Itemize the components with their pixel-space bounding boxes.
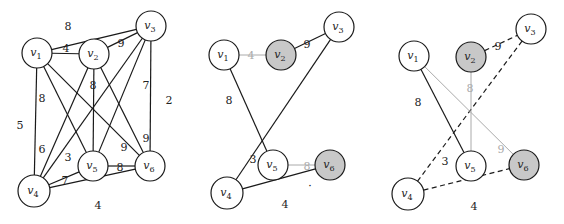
node-v6: v6 bbox=[315, 150, 345, 180]
node-v6: v6 bbox=[135, 151, 165, 181]
node-v1: v1 bbox=[399, 41, 429, 71]
node-v5: v5 bbox=[456, 151, 486, 181]
edge-weight-label: 8 bbox=[467, 82, 474, 95]
edge-v1-v5 bbox=[44, 66, 87, 152]
graph-figure: 849589896372784v1v2v3v4v5v6 498384v1v2v3… bbox=[0, 0, 564, 224]
edge-weight-label: 9 bbox=[143, 132, 150, 145]
panel-matching-graph: 498384v1v2v3v4v5v6 bbox=[209, 12, 354, 211]
edge-v1-v4 bbox=[34, 68, 36, 175]
node-v2: v2 bbox=[79, 39, 109, 69]
edge-v1-v6 bbox=[425, 67, 514, 155]
edge-weight-label: 8 bbox=[39, 92, 46, 105]
panel-modified-graph: 934889v1v2v3v4v5v6 bbox=[392, 14, 546, 213]
edge-weight-label: 5 bbox=[17, 119, 24, 132]
node-v6: v6 bbox=[509, 150, 539, 180]
edge-weight-label: 4 bbox=[248, 49, 255, 62]
edge-weight-label: 9 bbox=[304, 38, 311, 51]
edge-weight-label: 7 bbox=[143, 79, 150, 92]
node-v4: v4 bbox=[18, 175, 50, 207]
edge-weight-label: 3 bbox=[65, 151, 72, 164]
edge-v1-v5 bbox=[230, 69, 267, 152]
node-v4: v4 bbox=[211, 177, 243, 209]
edge-v2-v6 bbox=[101, 67, 144, 152]
edge-weight-label: 2 bbox=[166, 94, 173, 107]
edge-weight-label: 8 bbox=[65, 20, 72, 33]
edge-weight-label: 3 bbox=[442, 155, 449, 168]
edge-weight-label: 9 bbox=[121, 141, 128, 154]
edge-weight-label: 9 bbox=[498, 143, 505, 156]
node-v3: v3 bbox=[324, 12, 354, 42]
edge-weight-label: 6 bbox=[39, 143, 46, 156]
edge-weight-label: 8 bbox=[226, 94, 233, 107]
node-v3: v3 bbox=[136, 11, 166, 41]
node-v4: v4 bbox=[392, 178, 424, 210]
edge-weight-label: 4 bbox=[95, 199, 102, 212]
edge-weight-label: 3 bbox=[250, 153, 257, 166]
node-v1: v1 bbox=[209, 40, 239, 70]
stray-marks: · bbox=[308, 180, 312, 193]
stray-dot-mark: · bbox=[308, 180, 312, 193]
node-v5: v5 bbox=[78, 151, 108, 181]
node-v2: v2 bbox=[456, 42, 486, 72]
node-v1: v1 bbox=[22, 38, 52, 68]
edge-v3-v6 bbox=[150, 41, 151, 151]
edge-weight-label: 4 bbox=[471, 200, 478, 213]
edge-weight-label: 4 bbox=[282, 198, 289, 211]
edge-weight-label: 8 bbox=[90, 79, 97, 92]
node-v2: v2 bbox=[266, 40, 296, 70]
edge-weight-label: 8 bbox=[415, 96, 422, 109]
node-v5: v5 bbox=[258, 150, 288, 180]
edge-weight-label: 9 bbox=[118, 37, 125, 50]
edge-v1-v5 bbox=[421, 69, 464, 152]
edge-weight-label: 9 bbox=[495, 40, 502, 53]
node-v3: v3 bbox=[516, 14, 546, 44]
edge-weight-label: 4 bbox=[63, 42, 70, 55]
panel-original-graph: 849589896372784v1v2v3v4v5v6 bbox=[17, 11, 173, 212]
